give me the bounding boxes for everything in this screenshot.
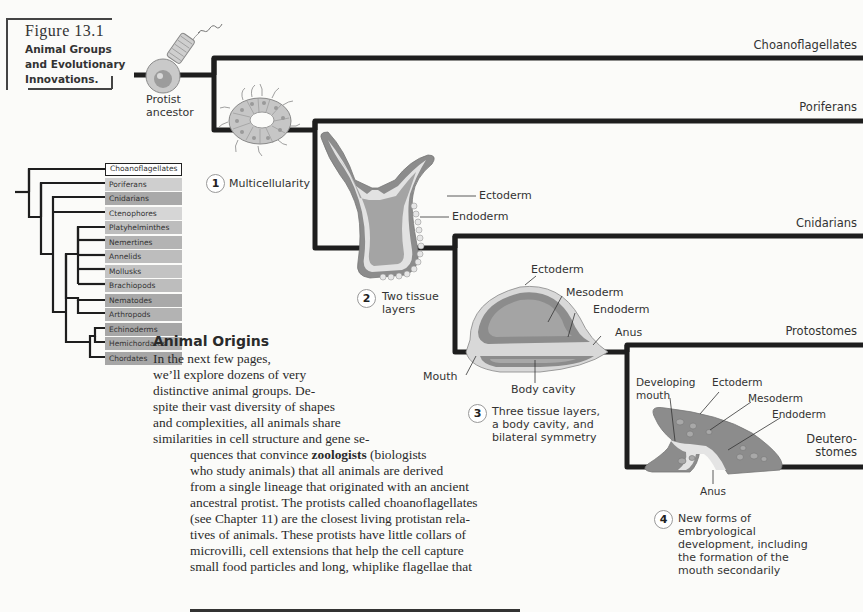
paragraph-line: ancestral protist. The protists called c…: [190, 495, 478, 511]
paragraph-line-with-term: quences that convince zoologists (biolog…: [190, 447, 427, 463]
paragraph-line: and complexities, all animals share: [153, 415, 341, 431]
bold-term-zoologists: zoologists: [312, 447, 367, 462]
mini-cladogram-lines: [15, 169, 105, 357]
mini-taxon-nemertines: Nemertines: [105, 236, 182, 249]
step-number-3: 3: [468, 404, 487, 423]
step-line: bilateral symmetry: [492, 431, 600, 444]
paragraph-line: distinctive animal groups. De-: [153, 383, 315, 399]
label-line: mouth: [636, 389, 695, 402]
paragraph-line: (see Chapter 11) are the closest living …: [190, 511, 470, 527]
label-deuterostome-developing-mouth: Developing mouth: [636, 376, 695, 402]
step-text-new-embryology: New forms of embryological development, …: [678, 512, 808, 577]
branch-label-deuterostomes: Deutero- stomes: [806, 433, 857, 459]
branch-label-protostomes: Protostomes: [785, 324, 857, 338]
step-line: New forms of: [678, 512, 808, 525]
text-run: (biologists: [367, 447, 427, 462]
paragraph-line: we’ll explore dozens of very: [153, 367, 306, 383]
paragraph-line: In the next few pages,: [153, 351, 271, 367]
protist-ancestor-label: Protist ancestor: [146, 93, 194, 119]
label-deuterostome-mesoderm: Mesoderm: [748, 392, 803, 405]
protist-ancestor-illustration: [146, 24, 222, 93]
label-line: stomes: [806, 446, 857, 459]
paragraph-line: small food particles and long, whiplike …: [190, 559, 472, 575]
deuterostome-illustration: [645, 392, 782, 484]
label-cnidarian-endoderm: Endoderm: [452, 210, 508, 223]
mini-taxon-cnidarians: Cnidarians: [105, 192, 182, 205]
mini-taxon-poriferans: Poriferans: [105, 178, 182, 191]
paragraph-line: from a single lineage that originated wi…: [190, 479, 469, 495]
step-number-2: 2: [357, 289, 376, 308]
step-line: Two tissue: [382, 290, 439, 303]
mini-taxon-ctenophores: Ctenophores: [105, 207, 182, 220]
label-protostome-anus: Anus: [615, 326, 642, 339]
label-line: Developing: [636, 376, 695, 389]
branch-poriferans: [315, 121, 863, 130]
step-text-multicellularity: Multicellularity: [229, 177, 310, 190]
label-protostome-ectoderm: Ectoderm: [531, 263, 584, 276]
step-number-1: 1: [206, 174, 225, 193]
paragraph-line: microvilli, cell extensions that help th…: [190, 543, 464, 559]
branch-label-cnidarians: Cnidarians: [796, 216, 857, 230]
mini-taxon-nematodes: Nematodes: [105, 294, 182, 307]
label-deuterostome-anus: Anus: [700, 485, 726, 498]
step-line: embryological: [678, 525, 808, 538]
label-deuterostome-ectoderm: Ectoderm: [712, 376, 762, 389]
label-deuterostome-endoderm: Endoderm: [772, 408, 826, 421]
branch-choanoflagellates: [214, 58, 863, 75]
branch-cnidarians: [455, 236, 863, 248]
mini-taxon-annelids: Annelids: [105, 250, 182, 263]
branch-protostomes: [627, 345, 863, 352]
label-protostome-body-cavity: Body cavity: [511, 383, 575, 396]
label-protostome-mesoderm: Mesoderm: [566, 286, 624, 299]
label-line: Protist: [146, 93, 194, 106]
label-cnidarian-ectoderm: Ectoderm: [479, 189, 532, 202]
paragraph-line: similarities in cell structure and gene …: [153, 431, 369, 447]
label-protostome-endoderm: Endoderm: [593, 303, 649, 316]
step-line: development, including: [678, 538, 808, 551]
mini-taxon-arthropods: Arthropods: [105, 308, 182, 321]
step-text-two-tissue-layers: Two tissue layers: [382, 290, 439, 316]
step-line: Three tissue layers,: [492, 405, 600, 418]
label-protostome-mouth: Mouth: [423, 370, 457, 383]
step-line: the formation of the: [678, 551, 808, 564]
branch-label-poriferans: Poriferans: [799, 100, 857, 114]
step-line: mouth secondarily: [678, 564, 808, 577]
mini-taxon-brachiopods: Brachiopods: [105, 279, 182, 292]
section-heading: Animal Origins: [153, 333, 269, 349]
mini-taxon-platyhelminthes: Platyhelminthes: [105, 221, 182, 234]
paragraph-line: who study animals) that all animals are …: [190, 463, 443, 479]
mini-taxon-mollusks: Mollusks: [105, 265, 182, 278]
step-line: a body cavity, and: [492, 418, 600, 431]
step-line: layers: [382, 303, 439, 316]
label-line: ancestor: [146, 106, 194, 119]
paragraph-line: tives of animals. These protists have li…: [190, 527, 466, 543]
branch-label-choanoflagellates: Choanoflagellates: [754, 38, 857, 52]
step-text-three-tissue-layers: Three tissue layers, a body cavity, and …: [492, 405, 600, 444]
text-run: quences that convince: [190, 447, 312, 462]
step-number-4: 4: [654, 510, 673, 529]
mini-taxon-choanoflagellates: Choanoflagellates: [105, 163, 182, 176]
multicellular-colony-illustration: [218, 84, 300, 156]
paragraph-line: spite their vast diversity of shapes: [153, 399, 335, 415]
